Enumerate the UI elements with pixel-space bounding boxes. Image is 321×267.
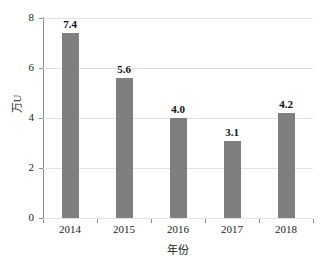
plot-area: 7.45.64.03.14.2 bbox=[43, 18, 313, 218]
y-tick-label: 0 bbox=[0, 212, 34, 223]
x-axis-title: 年份 bbox=[43, 241, 313, 257]
x-tick-label: 2018 bbox=[259, 224, 313, 235]
y-axis-title: 万U bbox=[8, 82, 24, 126]
bar[interactable] bbox=[224, 141, 241, 219]
bar[interactable] bbox=[170, 118, 187, 218]
x-tick-mark bbox=[151, 219, 152, 223]
bar[interactable] bbox=[62, 33, 79, 218]
y-tick-label: 6 bbox=[0, 62, 34, 73]
bar[interactable] bbox=[278, 113, 295, 218]
x-tick-mark bbox=[43, 219, 44, 223]
bar-value-label: 3.1 bbox=[212, 127, 252, 138]
y-tick-label: 2 bbox=[0, 162, 34, 173]
bar-value-label: 4.2 bbox=[266, 99, 306, 110]
bar-chart: 02468 7.45.64.03.14.2 201420152016201720… bbox=[0, 0, 321, 267]
y-tick-label: 8 bbox=[0, 12, 34, 23]
bar-value-label: 7.4 bbox=[50, 19, 90, 30]
x-tick-label: 2014 bbox=[43, 224, 97, 235]
bar-value-label: 5.6 bbox=[104, 64, 144, 75]
x-tick-mark bbox=[205, 219, 206, 223]
x-tick-mark bbox=[313, 219, 314, 223]
x-tick-label: 2016 bbox=[151, 224, 205, 235]
x-tick-label: 2015 bbox=[97, 224, 151, 235]
x-tick-mark bbox=[97, 219, 98, 223]
x-tick-mark bbox=[259, 219, 260, 223]
bar-value-label: 4.0 bbox=[158, 104, 198, 115]
gridline bbox=[43, 218, 313, 219]
x-tick-label: 2017 bbox=[205, 224, 259, 235]
bar[interactable] bbox=[116, 78, 133, 218]
gridline bbox=[43, 68, 313, 69]
